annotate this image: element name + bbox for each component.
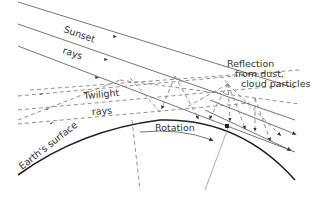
label-rotation: Rotation xyxy=(155,122,195,133)
label-rays-bottom: rays xyxy=(91,105,112,117)
ray-arrow-icon xyxy=(113,35,117,38)
twilight-diagram: Sunset rays Twilight rays Reflection fro… xyxy=(0,0,313,200)
label-rays-top: rays xyxy=(61,44,84,61)
radius-line xyxy=(205,128,228,190)
label-reflection-3: cloud particles xyxy=(241,78,311,89)
ray-arrow-icon xyxy=(104,58,108,61)
radius-line-dashed xyxy=(132,120,140,190)
ray-arrow-icon xyxy=(50,122,54,124)
ray-arrow-icon xyxy=(40,93,44,95)
observer-point xyxy=(225,124,229,128)
label-twilight: Twilight xyxy=(82,87,120,101)
